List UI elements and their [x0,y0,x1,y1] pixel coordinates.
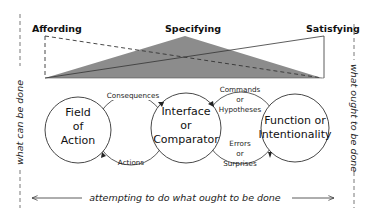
satisfying-label: Satisfying [306,23,360,34]
commands-line-3: Hypotheses [219,105,262,114]
bottom-label: attempting to do what ought to be done [89,192,281,203]
function-line-2: Intentionality [258,128,332,141]
right-side-label: what ought to be done [349,64,360,172]
interface-line-3: Comparator [153,133,219,146]
interface-line-1: Interface [161,105,210,118]
errors-line-2: or [236,149,243,158]
field-line-2: of [73,120,85,133]
errors-arrowhead [268,152,272,158]
commands-line-1: Commands [220,85,261,94]
errors-line-1: Errors [229,139,251,148]
consequences-label: Consequences [107,91,160,100]
function-line-1: Function or [264,114,326,127]
field-line-1: Field [65,106,90,119]
diagram-canvas: Affording Specifying Satisfying what can… [0,0,375,218]
errors-line-3: Surprises [223,159,257,168]
actions-label: Actions [118,158,145,167]
interface-line-2: or [180,119,192,132]
commands-line-2: or [236,95,243,104]
affording-label: Affording [32,23,82,34]
specifying-label: Specifying [165,23,221,34]
left-side-label: what can be done [14,80,25,165]
field-line-3: Action [61,134,95,147]
